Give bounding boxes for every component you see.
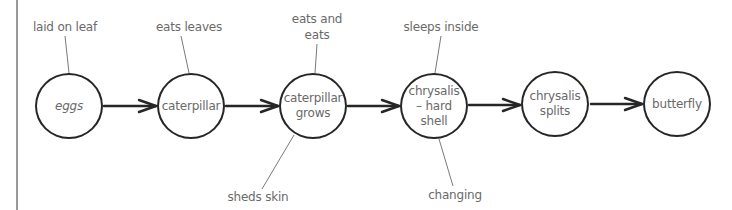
- annotation-changing: changing: [428, 187, 482, 203]
- node-butterfly: butterfly: [643, 71, 711, 137]
- node-label: chrysalis – hard shell: [409, 84, 460, 129]
- node-caterpillar-grows: caterpillar grows: [279, 73, 347, 139]
- annotation-eats-leaves: eats leaves: [156, 19, 222, 35]
- annotation-eats-and-eats: eats and eats: [292, 11, 342, 43]
- annotation-laid-on-leaf: laid on leaf: [33, 19, 97, 35]
- annotation-sheds-skin: sheds skin: [227, 189, 288, 205]
- arrow-chrysalis-to-chrysalis-splits: [469, 99, 520, 111]
- arrow-caterpillar-to-caterpillar-grows: [226, 100, 278, 112]
- leader-line-eats-leaves: [181, 36, 189, 73]
- annotation-sleeps-inside: sleeps inside: [404, 19, 479, 35]
- node-chrysalis-hard-shell: chrysalis – hard shell: [400, 73, 468, 139]
- node-label: butterfly: [652, 97, 702, 112]
- node-caterpillar: caterpillar: [157, 73, 225, 139]
- diagram-connectors: [0, 0, 732, 210]
- node-label: caterpillar: [162, 99, 221, 114]
- arrow-chrysalis-splits-to-butterfly: [591, 98, 642, 110]
- leader-line-changing: [439, 139, 453, 186]
- arrow-eggs-to-caterpillar: [104, 100, 156, 112]
- node-label: chrysalis splits: [530, 89, 581, 119]
- node-label: caterpillar grows: [284, 91, 343, 121]
- leader-line-laid-on-leaf: [65, 36, 69, 73]
- leader-line-eats-and-eats: [315, 44, 317, 73]
- arrow-caterpillar-grows-to-chrysalis: [348, 100, 399, 112]
- node-chrysalis-splits: chrysalis splits: [521, 71, 589, 137]
- leader-line-sleeps-inside: [435, 36, 441, 73]
- node-label: eggs: [55, 99, 83, 114]
- leader-line-sheds-skin: [262, 135, 294, 189]
- node-eggs: eggs: [35, 73, 103, 139]
